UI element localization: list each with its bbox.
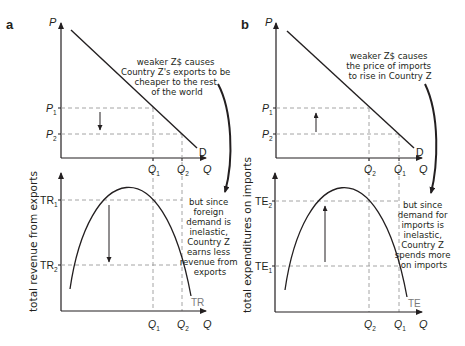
p2-label: P2: [262, 128, 273, 142]
tr-curve: [70, 187, 191, 296]
panel-a-bottom-note: but since foreign demand is inelastic, C…: [180, 197, 241, 277]
q1-label: Q1: [394, 163, 406, 177]
te-label: TE: [408, 298, 421, 309]
tr1-label: TR1: [40, 194, 58, 208]
y-axis-title: total expenditures on imports: [241, 157, 253, 313]
exchange-rate-diagram: a P Q D P1 P2 Q1 Q2: [0, 0, 465, 346]
p2-label: P2: [46, 128, 57, 142]
x-axis-label: Q: [419, 163, 428, 175]
x-axis-label: Q: [203, 163, 212, 175]
panel-a-top-note: weaker Z$ causes Country Z's exports to …: [121, 57, 233, 97]
panel-a: a P Q D P1 P2 Q1 Q2: [6, 16, 240, 332]
q2-label: Q2: [177, 163, 189, 177]
panel-b: b P Q D P1 P2 Q2 Q1 weaker Z$ causes th: [241, 16, 453, 332]
q2-label: Q2: [364, 163, 376, 177]
panel-b-top-note: weaker Z$ causes the price of imports to…: [346, 51, 434, 81]
demand-label: D: [416, 146, 424, 158]
x-axis-label: Q: [419, 318, 428, 330]
y-axis-label: P: [265, 16, 273, 28]
q2-label: Q2: [177, 318, 189, 332]
y-axis-label: P: [49, 16, 57, 28]
tr2-label: TR2: [40, 259, 58, 273]
demand-label: D: [199, 146, 207, 158]
q1-label: Q1: [148, 163, 160, 177]
tr-label: TR: [191, 297, 204, 308]
connector-arrow: [218, 84, 230, 192]
p1-label: P1: [262, 102, 273, 116]
panel-b-expenditure-chart: total expenditures on imports Q TE TE2 T…: [241, 157, 453, 332]
panel-b-label: b: [241, 17, 249, 32]
q1-label: Q1: [394, 318, 406, 332]
te-curve: [285, 188, 407, 297]
demand-curve: [287, 31, 414, 148]
connector-arrow: [425, 84, 436, 193]
te2-label: TE2: [255, 195, 272, 209]
q2-label: Q2: [364, 318, 376, 332]
p1-label: P1: [46, 102, 57, 116]
panel-a-revenue-chart: total revenue from exports Q TR TR1 TR2 …: [27, 171, 240, 332]
x-axis-label: Q: [203, 318, 212, 330]
q1-label: Q1: [148, 318, 160, 332]
y-axis-title: total revenue from exports: [27, 171, 39, 312]
panel-a-label: a: [6, 17, 14, 32]
te1-label: TE1: [255, 260, 272, 274]
panel-b-bottom-note: but since demand for imports is inelasti…: [395, 200, 453, 270]
